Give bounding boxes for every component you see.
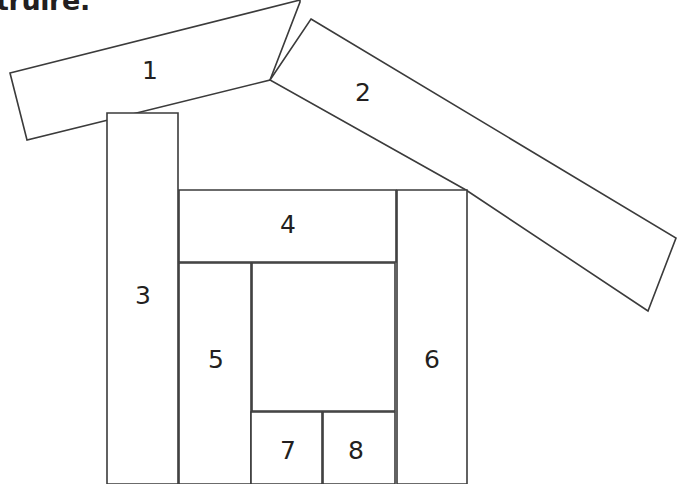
piece-5-label: 5: [208, 345, 224, 374]
piece-6-label: 6: [424, 345, 440, 374]
piece-3-label: 3: [135, 281, 151, 310]
piece-group-4[interactable]: 4: [179, 190, 396, 262]
piece-7-label: 7: [280, 436, 296, 465]
piece-8-label: 8: [348, 436, 364, 465]
piece-6-shape[interactable]: [397, 190, 467, 484]
piece-4-label: 4: [280, 210, 296, 239]
piece-group-7[interactable]: 7: [251, 412, 322, 484]
piece-group-8[interactable]: 8: [323, 412, 395, 484]
inner-open-space-group: [252, 263, 395, 411]
inner-open-space-shape: [252, 263, 395, 411]
piece-group-3[interactable]: 3: [107, 113, 178, 484]
house-diagram: 1 2 3 4 5 6 7 8: [0, 0, 681, 484]
piece-2-label: 2: [355, 78, 371, 107]
piece-group-6[interactable]: 6: [397, 190, 467, 484]
piece-group-5[interactable]: 5: [179, 263, 251, 484]
diagram-canvas: truire. 1 2 3 4 5 6 7: [0, 0, 681, 484]
piece-1-label: 1: [142, 56, 158, 85]
